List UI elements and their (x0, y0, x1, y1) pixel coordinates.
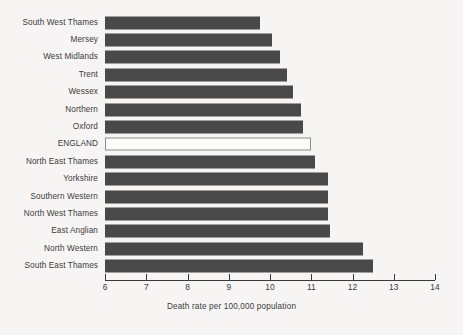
bar-row: Southern Western (0, 188, 463, 205)
bar-row: ENGLAND (0, 136, 463, 153)
axis-tick-label: 12 (348, 283, 357, 291)
bar (105, 68, 287, 81)
category-label: Mersey (71, 36, 98, 44)
axis-tick-label: 11 (307, 283, 316, 291)
category-label: Southern Western (31, 192, 98, 200)
bar-row: North West Thames (0, 205, 463, 222)
bar-row: Northern (0, 101, 463, 118)
axis-tick (394, 274, 395, 280)
bar (105, 16, 260, 29)
bar-row: South East Thames (0, 258, 463, 275)
category-label: Wessex (68, 88, 98, 96)
bar-highlight (105, 138, 311, 151)
axis-tick-label: 14 (430, 283, 439, 291)
bar (105, 120, 303, 133)
plot-area: South West ThamesMerseyWest MidlandsTren… (0, 0, 463, 290)
bar-row: North Western (0, 240, 463, 257)
bar-row: Mersey (0, 31, 463, 48)
category-label: South West Thames (22, 18, 98, 26)
bar-row: South West Thames (0, 14, 463, 31)
axis-tick (353, 274, 354, 280)
bar (105, 51, 280, 64)
axis-tick-label: 13 (389, 283, 398, 291)
bar-chart: South West ThamesMerseyWest MidlandsTren… (0, 0, 463, 335)
x-axis-inner: 67891011121314 (0, 274, 463, 319)
bar-row: Oxford (0, 118, 463, 135)
bar-row: Yorkshire (0, 171, 463, 188)
axis-tick-label: 10 (265, 283, 274, 291)
axis-tick-label: 6 (103, 283, 108, 291)
axis-tick (188, 274, 189, 280)
axis-tick (146, 274, 147, 280)
bar (105, 103, 301, 116)
bar (105, 33, 272, 46)
axis-tick (229, 274, 230, 280)
bar-row: North East Thames (0, 153, 463, 170)
axis-line (105, 280, 435, 281)
category-label: ENGLAND (58, 140, 98, 148)
bar (105, 190, 328, 203)
bar (105, 207, 328, 220)
bar (105, 242, 363, 255)
bar (105, 225, 330, 238)
category-label: North East Thames (26, 158, 98, 166)
category-label: West Midlands (43, 53, 98, 61)
category-label: Trent (79, 71, 98, 79)
category-label: Oxford (73, 123, 98, 131)
axis-tick (435, 274, 436, 280)
axis-tick-label: 9 (226, 283, 231, 291)
bar-row: Wessex (0, 84, 463, 101)
x-axis: 67891011121314 Death rate per 100,000 po… (0, 274, 463, 335)
bar-row: West Midlands (0, 49, 463, 66)
bar (105, 260, 373, 273)
category-label: North Western (44, 245, 98, 253)
axis-tick (270, 274, 271, 280)
category-label: Yorkshire (63, 175, 98, 183)
axis-tick (311, 274, 312, 280)
x-axis-title: Death rate per 100,000 population (0, 302, 463, 311)
bar (105, 86, 293, 99)
axis-tick-label: 7 (144, 283, 149, 291)
bar-row: East Anglian (0, 223, 463, 240)
axis-tick-label: 8 (185, 283, 190, 291)
category-label: Northern (65, 105, 98, 113)
category-label: East Anglian (51, 227, 98, 235)
bar (105, 155, 315, 168)
bar-row: Trent (0, 66, 463, 83)
axis-tick (105, 274, 106, 280)
bar (105, 173, 328, 186)
category-label: South East Thames (25, 262, 98, 270)
category-label: North West Thames (24, 210, 98, 218)
